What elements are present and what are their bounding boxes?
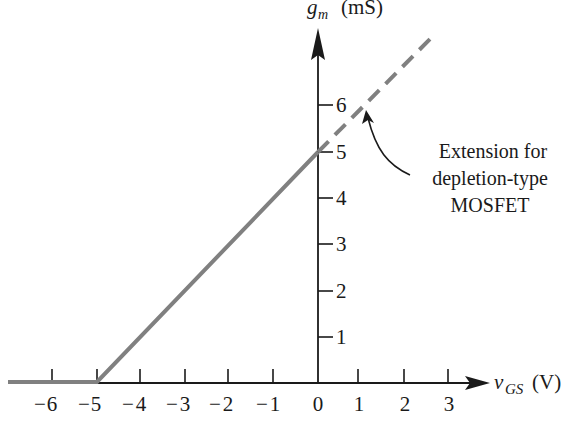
x-tick-label: 1 — [354, 392, 365, 416]
y-tick-label: 6 — [336, 93, 347, 117]
x-tick-label: 2 — [400, 392, 411, 416]
x-tick-label: 0 — [313, 392, 324, 416]
y-axis-label: g m (mS) — [307, 0, 383, 22]
svg-text:−: − — [209, 392, 221, 416]
x-tick-label: 3 — [180, 392, 191, 416]
x-tick-labels: − 6 − 5 − 4 − 3 − 2 − 1 0 1 2 3 — [34, 392, 454, 416]
x-tick-label: 4 — [136, 392, 147, 416]
x-tick-label: 2 — [223, 392, 234, 416]
x-ticks — [52, 369, 448, 383]
x-axis-label: v GS (V) — [494, 370, 561, 397]
y-label-main: g — [307, 0, 318, 19]
gm-vs-vgs-chart: − 6 − 5 − 4 − 3 − 2 − 1 0 1 2 3 1 2 3 4 … — [0, 0, 570, 423]
annotation-line: depletion-type — [432, 167, 548, 190]
y-tick-label: 2 — [336, 279, 347, 303]
x-tick-label: 6 — [47, 392, 58, 416]
y-axis — [311, 28, 325, 383]
annotation-text: Extension for depletion-type MOSFET — [432, 140, 548, 216]
y-tick-label: 4 — [336, 186, 347, 210]
x-tick-label: 3 — [444, 392, 455, 416]
annotation-line: Extension for — [439, 140, 548, 162]
svg-text:−: − — [78, 392, 90, 416]
annotation-arrow — [362, 110, 410, 175]
arrowhead-icon — [362, 110, 374, 124]
x-label-unit: (V) — [532, 370, 561, 394]
y-label-sub: m — [318, 7, 328, 22]
x-tick-label: 1 — [270, 392, 281, 416]
svg-text:−: − — [34, 392, 46, 416]
svg-text:−: − — [256, 392, 268, 416]
x-label-main: v — [494, 370, 504, 394]
y-tick-label: 5 — [336, 140, 347, 164]
y-label-unit: (mS) — [341, 0, 383, 19]
y-ticks — [318, 105, 333, 337]
svg-text:−: − — [122, 392, 134, 416]
svg-text:−: − — [166, 392, 178, 416]
x-tick-label: 5 — [91, 392, 102, 416]
y-tick-label: 3 — [336, 232, 347, 256]
series-solid — [8, 152, 318, 382]
y-tick-label: 1 — [336, 325, 347, 349]
x-label-sub: GS — [505, 381, 524, 397]
annotation-line: MOSFET — [451, 194, 530, 216]
